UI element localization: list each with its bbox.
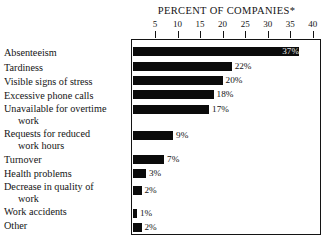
bar-value-label: 17%: [212, 104, 229, 114]
category-label-line: Health problems: [4, 168, 72, 179]
category-label: Unavailable for overtimework: [4, 103, 129, 126]
bar: [133, 76, 223, 85]
x-axis-tick-mark: [290, 31, 291, 38]
category-label: Health problems: [4, 168, 129, 180]
x-axis-tick-mark: [245, 31, 246, 38]
category-label: Excessive phone calls: [4, 90, 129, 102]
bar: [133, 62, 232, 71]
bar: [133, 155, 165, 164]
bar-value-label: 22%: [235, 61, 252, 71]
bar-row: 2%: [133, 223, 320, 232]
bar-value-label: 2%: [145, 185, 157, 195]
category-label-line: work: [4, 115, 129, 127]
category-label-line: Absenteeism: [4, 47, 57, 58]
bar: [133, 223, 142, 232]
category-label: Requests for reducedwork hours: [4, 128, 129, 151]
category-label: Decrease in quality ofwork: [4, 181, 129, 204]
bar: [133, 90, 214, 99]
x-axis-tick-mark: [313, 31, 314, 38]
x-axis: 510152025303540: [0, 0, 329, 40]
x-axis-tick-label: 15: [196, 19, 205, 29]
bar-row: 9%: [133, 131, 320, 140]
x-axis-tick-label: 35: [286, 19, 295, 29]
category-label-line: work hours: [4, 140, 129, 152]
bar-row: 2%: [133, 186, 320, 195]
category-label-line: Requests for reduced: [4, 128, 90, 139]
x-axis-tick-label: 40: [308, 19, 317, 29]
category-label-line: Other: [4, 220, 27, 231]
bar: [133, 186, 142, 195]
category-label: Other: [4, 220, 129, 232]
bar: [133, 209, 138, 218]
bar-series: 37%22%20%18%17%9%7%3%2%1%2%: [133, 41, 320, 234]
bar-row: 22%: [133, 62, 320, 71]
bar-value-label: 18%: [217, 89, 234, 99]
category-label: Work accidents: [4, 206, 129, 218]
bar-value-label: 37%: [282, 46, 299, 56]
category-label: Visible signs of stress: [4, 76, 129, 88]
chart-container: PERCENT OF COMPANIES* 510152025303540 Ab…: [0, 0, 329, 246]
bar: [133, 105, 210, 114]
bar-row: 1%: [133, 209, 320, 218]
category-label-line: Work accidents: [4, 206, 67, 217]
x-axis-tick-label: 30: [263, 19, 272, 29]
bar-value-label: 1%: [140, 208, 152, 218]
bar-row: 17%: [133, 105, 320, 114]
bar-value-label: 7%: [167, 154, 179, 164]
bar-value-label: 2%: [145, 222, 157, 232]
bar: [133, 47, 300, 56]
x-axis-tick-label: 20: [218, 19, 227, 29]
bar-row: 20%: [133, 76, 320, 85]
bar: [133, 131, 174, 140]
bar-row: 18%: [133, 90, 320, 99]
x-axis-tick-label: 25: [241, 19, 250, 29]
bar: [133, 169, 147, 178]
x-axis-tick-label: 10: [173, 19, 182, 29]
category-label-line: Unavailable for overtime: [4, 103, 106, 114]
category-label-line: Tardiness: [4, 62, 43, 73]
x-axis-tick-mark: [268, 31, 269, 38]
category-label: Tardiness: [4, 62, 129, 74]
bar-row: 37%: [133, 47, 320, 56]
category-label-line: work: [4, 193, 129, 205]
category-label-line: Decrease in quality of: [4, 181, 94, 192]
bar-value-label: 3%: [149, 168, 161, 178]
x-axis-tick-label: 5: [153, 19, 158, 29]
category-label-list: AbsenteeismTardinessVisible signs of str…: [0, 39, 129, 235]
category-label-line: Excessive phone calls: [4, 90, 93, 101]
bar-row: 7%: [133, 155, 320, 164]
x-axis-tick-mark: [155, 31, 156, 38]
x-axis-tick-mark: [200, 31, 201, 38]
category-label: Turnover: [4, 154, 129, 166]
x-axis-tick-mark: [178, 31, 179, 38]
category-label: Absenteeism: [4, 47, 129, 59]
category-label-line: Turnover: [4, 154, 42, 165]
bar-value-label: 20%: [226, 75, 243, 85]
x-axis-tick-mark: [223, 31, 224, 38]
bar-row: 3%: [133, 169, 320, 178]
category-label-line: Visible signs of stress: [4, 76, 93, 87]
bar-value-label: 9%: [176, 130, 188, 140]
